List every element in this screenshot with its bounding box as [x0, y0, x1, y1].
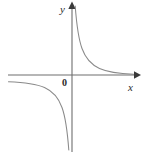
hyperbola-figure: y x 0 [0, 0, 145, 153]
x-axis-arrowhead [134, 71, 141, 79]
coordinate-plot [0, 0, 145, 153]
y-axis-arrowhead [68, 2, 75, 10]
x-axis-label: x [128, 82, 133, 93]
hyperbola-branch-quadrant-1 [75, 6, 133, 74]
origin-label: 0 [62, 78, 67, 88]
hyperbola-branch-quadrant-3 [9, 82, 69, 150]
y-axis-label: y [60, 4, 65, 15]
